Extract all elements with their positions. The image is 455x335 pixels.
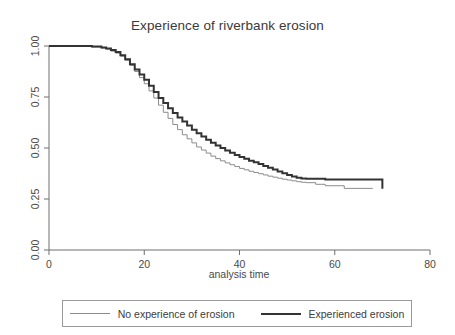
chart-legend: No experience of erosion Experienced ero…	[62, 300, 412, 327]
series-line-no-experience	[49, 46, 373, 188]
y-tick-label: 0.50	[29, 138, 41, 159]
survival-chart-figure: Experience of riverbank erosion 0.000.25…	[0, 0, 455, 335]
x-axis-ticks: 020406080	[46, 250, 436, 270]
x-tick-label: 60	[329, 258, 341, 270]
y-axis-ticks: 0.000.250.500.751.00	[29, 36, 49, 261]
y-tick-label: 0.25	[29, 189, 41, 210]
legend-line-icon-thin	[70, 313, 110, 314]
series-line-experienced	[49, 46, 382, 189]
legend-entry-experienced: Experienced erosion	[261, 308, 405, 320]
series-layer	[49, 46, 382, 189]
legend-entry-no-experience: No experience of erosion	[70, 308, 235, 320]
x-tick-label: 20	[138, 258, 150, 270]
legend-line-icon-thick	[261, 313, 301, 315]
y-tick-label: 0.75	[29, 87, 41, 108]
plot-area: 0.000.250.500.751.00 020406080 analysis …	[0, 0, 455, 300]
legend-label-no-experience: No experience of erosion	[118, 308, 235, 320]
y-tick-label: 1.00	[29, 36, 41, 57]
x-axis-title: analysis time	[209, 268, 270, 280]
legend-label-experienced: Experienced erosion	[309, 308, 405, 320]
y-tick-label: 0.00	[29, 240, 41, 261]
x-tick-label: 80	[424, 258, 436, 270]
x-tick-label: 0	[46, 258, 52, 270]
